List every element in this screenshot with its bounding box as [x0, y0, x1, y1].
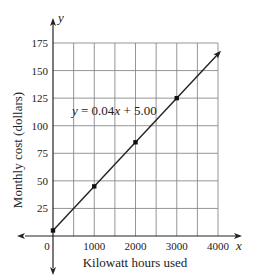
equation-label: y = 0.04x + 5.00 [70, 103, 157, 118]
y-tick-label: 50 [37, 175, 49, 187]
tick-labels: 01000200030004000255075100125150175 [32, 37, 230, 252]
y-tick-label: 125 [32, 92, 49, 104]
data-point-marker [92, 184, 96, 188]
grid-lines [53, 43, 218, 236]
data-point-marker [133, 140, 137, 144]
y-tick-label: 175 [32, 37, 49, 49]
x-axis-variable: x [235, 238, 242, 253]
y-tick-label: 150 [32, 65, 49, 77]
axes [17, 20, 240, 275]
x-axis-label: Kilowatt hours used [83, 255, 188, 270]
data-point-marker [175, 96, 179, 100]
equation-mid: = 0.04 [78, 103, 115, 118]
y-tick-label: 75 [37, 147, 49, 159]
x-axis-left-arrow-icon [17, 233, 25, 239]
x-tick-label: 0 [44, 240, 50, 252]
x-tick-label: 2000 [125, 240, 148, 252]
y-tick-label: 25 [37, 202, 49, 214]
x-tick-label: 3000 [166, 240, 189, 252]
cost-chart: 01000200030004000255075100125150175 y x … [0, 0, 259, 280]
x-tick-label: 4000 [207, 240, 230, 252]
y-axis-variable: y [56, 10, 64, 25]
equation-suffix: + 5.00 [120, 103, 157, 118]
y-axis-label: Monthly cost (dollars) [10, 92, 25, 208]
x-tick-label: 1000 [83, 240, 106, 252]
y-axis-bottom-arrow-icon [50, 267, 56, 275]
y-tick-label: 100 [32, 120, 49, 132]
data-point-marker [51, 228, 55, 232]
